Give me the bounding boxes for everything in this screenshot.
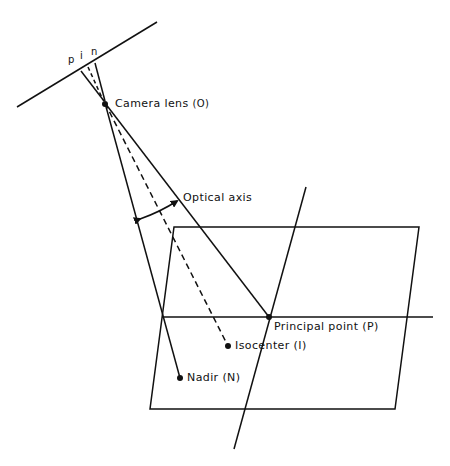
camera-lens-symbol: (O) [193,98,210,109]
isocenter-label: Isocenter (I) [235,339,307,352]
ray-to-nadir [105,103,180,378]
label-i: i [80,50,83,61]
ray-to-principal-point [105,103,269,317]
principal-point-dot [266,314,272,320]
principal-point-label: Principal point (P) [274,320,379,333]
ray-to-isocenter [105,103,228,346]
label-n: n [91,46,98,57]
tilt-angle-arc [140,201,177,219]
lens-dot [102,101,108,107]
nadir-dot [177,375,183,381]
camera-lens-text: Camera lens [115,97,189,110]
camera-lens-label: Camera lens (O) [115,97,209,110]
isocenter-dot [225,343,231,349]
nadir-label: Nadir (N) [187,371,240,384]
optical-axis-label: Optical axis [183,191,252,204]
diagram-canvas [0,0,450,466]
label-p: p [68,54,75,65]
film-plane-line [17,22,157,107]
